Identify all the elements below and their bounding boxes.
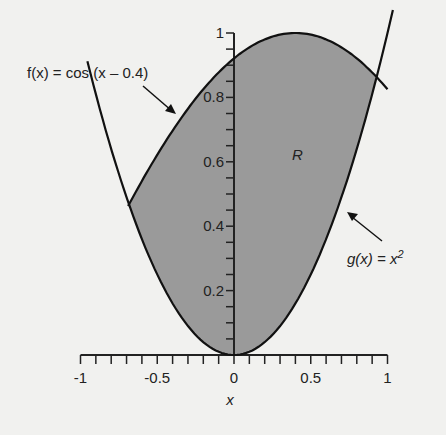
y-tick-label: 0.6 xyxy=(203,153,224,170)
shaded-region-r xyxy=(128,33,375,355)
g-arrow xyxy=(352,217,382,241)
x-tick-label: 1 xyxy=(383,369,391,386)
y-tick-label: 0.4 xyxy=(203,217,224,234)
g-label: g(x) = x2 xyxy=(347,248,404,267)
x-tick-label: 0.5 xyxy=(300,369,321,386)
f-arrow xyxy=(143,86,172,111)
chart-plot: -1-0.500.510.20.40.60.81xf(x) = cos (x –… xyxy=(0,0,446,435)
x-tick-label: -0.5 xyxy=(144,369,170,386)
x-tick-label: -1 xyxy=(74,369,87,386)
f-label: f(x) = cos (x – 0.4) xyxy=(27,64,148,81)
y-tick-label: 0.8 xyxy=(203,88,224,105)
region-label: R xyxy=(292,146,303,163)
x-tick-label: 0 xyxy=(230,369,238,386)
y-tick-label: 1 xyxy=(216,24,224,41)
y-tick-label: 0.2 xyxy=(203,282,224,299)
x-axis-label: x xyxy=(225,391,234,408)
